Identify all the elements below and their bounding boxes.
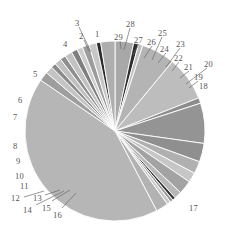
pie-label-24: 24 — [160, 45, 169, 54]
pie-label-22: 22 — [174, 54, 183, 63]
pie-label-26: 26 — [147, 38, 156, 47]
pie-label-29: 29 — [114, 33, 123, 42]
pie-label-12: 12 — [11, 194, 20, 203]
pie-label-8: 8 — [13, 142, 17, 151]
pie-label-4: 4 — [63, 40, 67, 49]
pie-label-25: 25 — [158, 29, 167, 38]
pie-label-27: 27 — [134, 36, 143, 45]
pie-label-18: 18 — [199, 82, 208, 91]
pie-label-15: 15 — [42, 204, 51, 213]
pie-slices-group — [25, 41, 205, 221]
pie-label-28: 28 — [126, 20, 135, 29]
pie-label-23: 23 — [176, 40, 185, 49]
pie-label-21: 21 — [184, 63, 193, 72]
pie-label-5: 5 — [33, 70, 37, 79]
pie-label-13: 13 — [33, 194, 42, 203]
pie-label-19: 19 — [194, 73, 203, 82]
pie-label-3: 3 — [75, 19, 79, 28]
pie-label-1: 1 — [95, 30, 99, 39]
pie-chart: 1234567891011121314151617181920212223242… — [0, 0, 227, 233]
pie-label-14: 14 — [23, 206, 32, 215]
pie-label-20: 20 — [204, 60, 213, 69]
pie-label-11: 11 — [20, 182, 29, 191]
pie-label-2: 2 — [79, 32, 83, 41]
pie-label-6: 6 — [18, 96, 22, 105]
pie-label-17: 17 — [189, 204, 198, 213]
pie-label-10: 10 — [15, 172, 24, 181]
pie-label-16: 16 — [53, 211, 62, 220]
pie-label-7: 7 — [13, 113, 17, 122]
pie-label-9: 9 — [16, 157, 20, 166]
